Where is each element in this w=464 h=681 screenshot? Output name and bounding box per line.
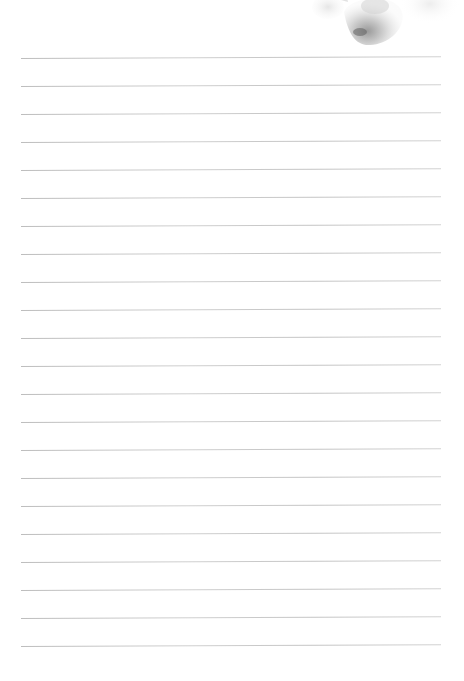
ruled-line xyxy=(21,140,441,143)
ruled-line xyxy=(21,336,441,339)
ruled-line xyxy=(21,56,441,59)
ruled-line xyxy=(21,644,441,647)
ruled-lines xyxy=(0,0,464,681)
ruled-line xyxy=(21,392,441,395)
ruled-line xyxy=(21,532,441,535)
ruled-line xyxy=(21,196,441,199)
ruled-line xyxy=(21,224,441,227)
ruled-line xyxy=(21,364,441,367)
ruled-line xyxy=(21,112,441,115)
ruled-line xyxy=(21,420,441,423)
ruled-line xyxy=(21,560,441,563)
ruled-line xyxy=(21,476,441,479)
ruled-line xyxy=(21,168,441,171)
ruled-line xyxy=(21,308,441,311)
ruled-line xyxy=(21,616,441,619)
ruled-line xyxy=(21,504,441,507)
ruled-line xyxy=(21,448,441,451)
ruled-line xyxy=(21,280,441,283)
lined-page xyxy=(0,0,464,681)
ruled-line xyxy=(21,252,441,255)
ruled-line xyxy=(21,84,441,87)
ruled-line xyxy=(21,588,441,591)
